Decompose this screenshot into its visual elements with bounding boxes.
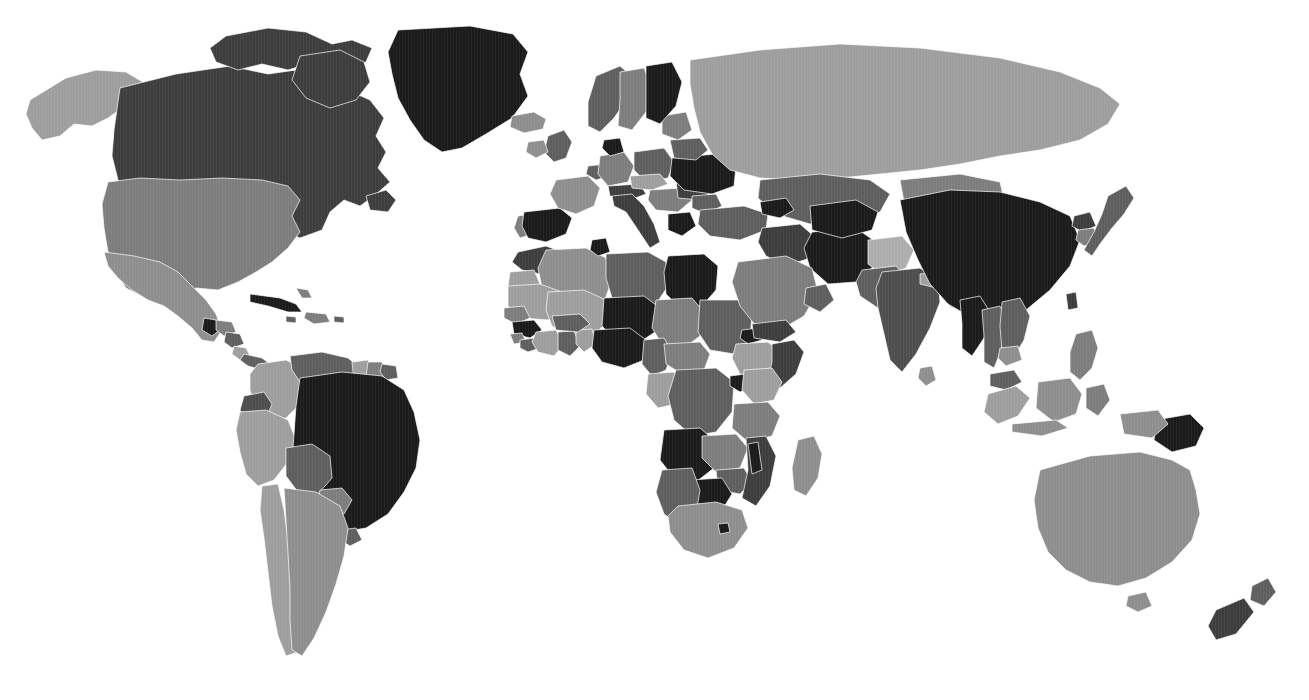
country-lesotho — [718, 523, 730, 534]
country-taiwan — [1066, 292, 1078, 310]
world-map-svg — [0, 0, 1309, 700]
world-map — [0, 0, 1309, 700]
country-jamaica — [286, 316, 296, 323]
country-puerto-rico — [334, 316, 344, 323]
